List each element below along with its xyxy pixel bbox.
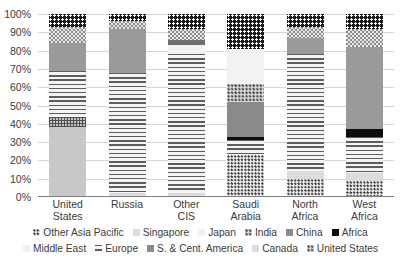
- y-tick-label: 80%: [0, 46, 31, 56]
- legend-item[interactable]: Europe: [95, 243, 138, 254]
- oap-swatch: [33, 229, 40, 236]
- bar-segment[interactable]: [168, 29, 205, 40]
- x-axis-labels: UnitedStatesRussiaOtherCISSaudiArabiaNor…: [38, 199, 394, 225]
- legend-item-label: Other Asia Pacific: [43, 227, 123, 238]
- legend-item-label: Japan: [208, 227, 236, 238]
- y-tick-label: 50%: [0, 101, 31, 111]
- bar-segment[interactable]: [227, 155, 264, 197]
- legend-item-label: United States: [317, 243, 378, 254]
- x-axis-label-line1: United: [38, 199, 98, 211]
- x-axis-label: OtherCIS: [156, 199, 216, 222]
- bar-segment[interactable]: [346, 14, 383, 29]
- gridline: [38, 179, 394, 180]
- bar-segment[interactable]: [227, 84, 264, 102]
- bar-segment[interactable]: [49, 27, 86, 43]
- x-axis-label-line1: Russia: [97, 199, 157, 211]
- legend-item-label: Europe: [105, 243, 138, 254]
- x-axis-label-line2: States: [38, 211, 98, 223]
- x-axis-label-line2: Africa: [334, 211, 394, 223]
- china-swatch: [286, 229, 293, 236]
- legend-item-label: Africa: [342, 227, 368, 238]
- bar-segment[interactable]: [49, 14, 86, 27]
- gridline: [38, 87, 394, 88]
- bar-segment[interactable]: [168, 54, 205, 193]
- bar-segment[interactable]: [287, 179, 324, 197]
- bar-segment[interactable]: [287, 54, 324, 171]
- x-axis-label-line1: Saudi: [216, 199, 276, 211]
- y-tick-label: 90%: [0, 27, 31, 37]
- x-axis-label: SaudiArabia: [216, 199, 276, 222]
- bar-segment[interactable]: [227, 137, 264, 141]
- legend-item-label: India: [255, 227, 277, 238]
- legend-item[interactable]: Canada: [252, 243, 298, 254]
- y-tick-label: 10%: [0, 174, 31, 184]
- legend-item[interactable]: S. & Cent. America: [147, 243, 243, 254]
- europe-swatch: [95, 245, 102, 252]
- bar-west-africa[interactable]: [346, 14, 383, 197]
- bar-segment[interactable]: [287, 27, 324, 38]
- legend-row-2: Middle EastEuropeS. & Cent. AmericaCanad…: [0, 240, 401, 256]
- bar-segment[interactable]: [227, 14, 264, 49]
- legend-item[interactable]: China: [286, 227, 323, 238]
- scamerica-swatch: [147, 245, 154, 252]
- bar-segment[interactable]: [346, 129, 383, 136]
- x-axis-label: Russia: [97, 199, 157, 211]
- bar-russia[interactable]: [109, 14, 146, 197]
- bar-segment[interactable]: [346, 181, 383, 197]
- legend-item-label: S. & Cent. America: [157, 243, 243, 254]
- bar-segment[interactable]: [109, 73, 146, 194]
- y-tick-label: 40%: [0, 119, 31, 129]
- bar-segment[interactable]: [49, 127, 86, 197]
- japan-swatch: [198, 229, 205, 236]
- bar-north-africa[interactable]: [287, 14, 324, 197]
- legend-item[interactable]: India: [245, 227, 277, 238]
- bar-segment[interactable]: [287, 14, 324, 27]
- legend-item-label: Canada: [262, 243, 298, 254]
- bar-segment[interactable]: [168, 45, 205, 54]
- bar-segment[interactable]: [227, 49, 264, 84]
- bar-segment[interactable]: [49, 43, 86, 70]
- x-axis-label-line1: North: [275, 199, 335, 211]
- middleeast-swatch: [23, 245, 30, 252]
- bar-segment[interactable]: [168, 14, 205, 29]
- us-swatch: [307, 245, 314, 252]
- legend-item[interactable]: Africa: [332, 227, 368, 238]
- legend-item[interactable]: Singapore: [133, 227, 189, 238]
- bar-segment[interactable]: [49, 117, 86, 128]
- y-tick-label: 20%: [0, 155, 31, 165]
- bar-saudi-arabia[interactable]: [227, 14, 264, 197]
- bar-segment[interactable]: [109, 14, 146, 21]
- plot-area: [38, 14, 394, 197]
- bar-segment[interactable]: [227, 102, 264, 137]
- bar-segment[interactable]: [49, 71, 86, 117]
- legend-item[interactable]: United States: [307, 243, 378, 254]
- x-axis-label-line1: West: [334, 199, 394, 211]
- bar-other-cis[interactable]: [168, 14, 205, 197]
- bar-segment[interactable]: [346, 29, 383, 47]
- gridline: [38, 14, 394, 15]
- gridline: [38, 142, 394, 143]
- legend-item-label: Singapore: [143, 227, 189, 238]
- legend-item[interactable]: Other Asia Pacific: [33, 227, 123, 238]
- x-axis-label-line1: Other: [156, 199, 216, 211]
- y-tick-label: 0%: [0, 192, 31, 202]
- y-tick-label: 30%: [0, 137, 31, 147]
- x-axis-line: [38, 196, 394, 197]
- bar-segment[interactable]: [287, 38, 324, 54]
- canada-swatch: [252, 245, 259, 252]
- bar-segment[interactable]: [346, 47, 383, 129]
- legend-item[interactable]: Middle East: [23, 243, 86, 254]
- bar-segment[interactable]: [346, 173, 383, 180]
- bar-segment[interactable]: [227, 140, 264, 155]
- bar-segment[interactable]: [109, 29, 146, 73]
- bar-segment[interactable]: [168, 40, 205, 45]
- bar-segment[interactable]: [346, 137, 383, 174]
- stacked-bar-chart: 100%90%80%70%60%50%40%30%20%10%0% United…: [0, 0, 401, 262]
- bar-united-states[interactable]: [49, 14, 86, 197]
- chart-legend: Other Asia PacificSingaporeJapanIndiaChi…: [0, 224, 401, 260]
- bar-segment[interactable]: [109, 21, 146, 28]
- bar-segment[interactable]: [287, 171, 324, 178]
- legend-item[interactable]: Japan: [198, 227, 236, 238]
- x-axis-label-line2: CIS: [156, 211, 216, 223]
- x-axis-label: WestAfrica: [334, 199, 394, 222]
